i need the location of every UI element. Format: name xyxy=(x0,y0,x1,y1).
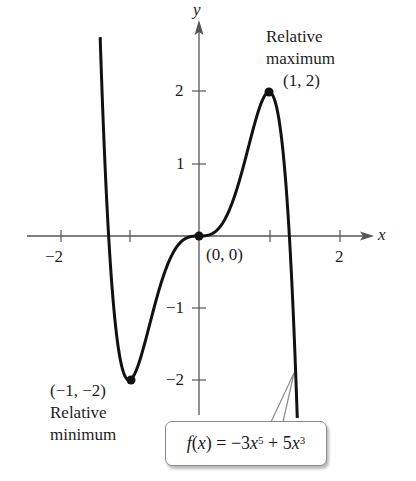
function-equation: f(x) = −3x5 + 5x3 xyxy=(166,432,326,454)
relative-min-label-line1: Relative xyxy=(50,403,107,423)
function-callout: f(x) = −3x5 + 5x3 xyxy=(165,421,327,466)
eq-x2: x xyxy=(250,433,258,453)
y-tick-label-1: 1 xyxy=(176,154,185,174)
origin-point xyxy=(195,232,204,241)
relative-min-label-line2: minimum xyxy=(50,425,116,445)
eq-plus: + 5 xyxy=(264,433,292,453)
origin-coords: (0, 0) xyxy=(206,245,243,265)
x-axis-label: x xyxy=(378,225,386,245)
eq-exp2: 3 xyxy=(300,434,306,446)
callout-pointer xyxy=(271,373,294,422)
relative-max-point xyxy=(265,88,274,97)
relative-max-label-line2: maximum xyxy=(266,49,335,69)
y-tick-label-neg2: −2 xyxy=(166,370,184,390)
eq-x: x xyxy=(198,433,206,453)
y-tick-label-neg1: −1 xyxy=(166,298,184,318)
x-tick-label-neg2: −2 xyxy=(45,247,63,267)
relative-max-label-line1: Relative xyxy=(266,27,323,47)
eq-exp1: 5 xyxy=(258,434,264,446)
eq-close: ) = −3 xyxy=(206,433,250,453)
y-tick-label-2: 2 xyxy=(175,81,184,101)
eq-x3: x xyxy=(292,433,300,453)
x-tick-label-2: 2 xyxy=(335,247,344,267)
relative-max-coords: (1, 2) xyxy=(283,71,320,91)
relative-min-point xyxy=(127,376,136,385)
relative-min-coords: (−1, −2) xyxy=(50,381,106,401)
y-axis-label: y xyxy=(193,0,201,20)
